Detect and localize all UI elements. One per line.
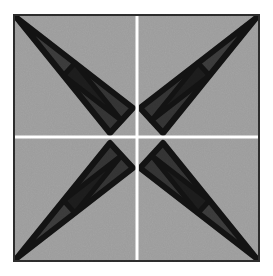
geometric-figure-svg (0, 0, 273, 276)
figure-container: Four-fold symmetric fractal triangle fig… (0, 0, 273, 276)
grain-texture (14, 15, 259, 261)
